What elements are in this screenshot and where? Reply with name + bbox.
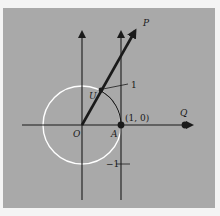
label-p: P: [142, 18, 150, 28]
label-a-coords: (1, 0): [125, 113, 149, 123]
label-minus-one: −1: [106, 159, 119, 169]
point-a: [118, 122, 125, 129]
label-origin: O: [73, 129, 81, 139]
label-one: 1: [131, 80, 137, 90]
label-a: A: [110, 129, 118, 139]
unit-circle-diagram: P U 1 (1, 0) Q O A −1: [0, 0, 220, 216]
label-q: Q: [180, 108, 188, 118]
point-q: [182, 122, 189, 129]
label-u: U: [89, 91, 97, 101]
point-u: [99, 88, 104, 93]
